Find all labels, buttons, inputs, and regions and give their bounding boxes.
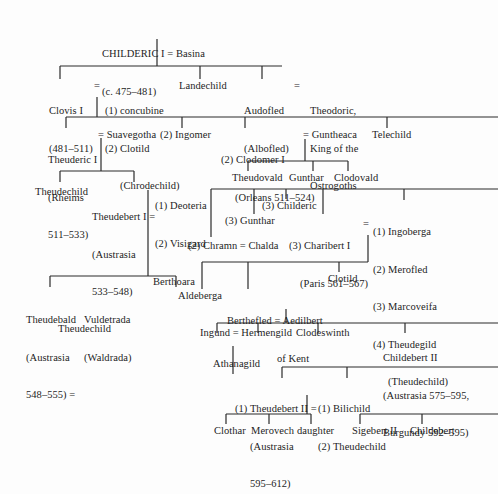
node-name: (2) Clodomer I xyxy=(221,154,314,167)
node-reign: 595–612) xyxy=(235,478,317,491)
node-alias: (Waldrada) xyxy=(84,352,131,365)
node-gunthar: Gunthar xyxy=(289,172,324,185)
node-telechild: Telechild xyxy=(372,129,411,142)
node-name: Audofled xyxy=(244,105,289,118)
node-name: Theudebert I = xyxy=(92,211,155,224)
node-clothar: Clothar xyxy=(214,425,246,438)
node-ingund: Ingund = Hermengild xyxy=(200,327,292,340)
node-childeric: (3) Childeric xyxy=(262,200,317,213)
node-name: (3) Charibert I xyxy=(289,240,368,253)
node-reign: (Austrasia xyxy=(92,249,155,262)
node-theudebald: Theudebald (Austrasia 548–555) = xyxy=(26,289,76,414)
spouse: (3) Marcoveifa xyxy=(373,301,448,314)
node-theudovald: Theudovald xyxy=(232,172,283,185)
spouse: (2) Theudechild xyxy=(318,441,386,454)
node-name: CHILDERIC I = Basina xyxy=(102,48,205,61)
node-merovech: Merovech xyxy=(251,425,294,438)
node-clodeswinth: Clodeswinth xyxy=(296,327,350,340)
spouse: (1) concubine xyxy=(105,105,180,118)
node-guntheaca: = Guntheaca xyxy=(303,129,357,142)
node-gunthar-3: (3) Gunthar xyxy=(225,215,275,228)
spouse: (2) Clotild xyxy=(105,143,180,156)
node-childebert: Childebert xyxy=(410,425,455,438)
node-reign: 548–555) = xyxy=(26,389,76,402)
node-theudechild: Theudechild xyxy=(35,186,88,199)
node-suavegotha: = Suavegotha xyxy=(98,129,156,142)
node-sigebert-ii: Sigebert II xyxy=(352,425,397,438)
node-name: (1) Theudebert II = xyxy=(235,403,317,416)
node-theudechild-2: Theudechild xyxy=(58,323,111,336)
node-reign: 511–533) xyxy=(48,229,97,242)
node-theodoric: Theodoric, King of the Ostrogoths xyxy=(310,80,358,205)
node-clodovald: Clodovald xyxy=(334,172,378,185)
node-chramn: (2) Chramn = Chalda xyxy=(188,240,279,253)
marriage-sign: = xyxy=(363,218,369,231)
marriage-sign: = xyxy=(294,80,300,93)
node-name: Theodoric, xyxy=(310,105,358,118)
node-name: Clovis I xyxy=(49,105,93,118)
node-landechild: Landechild xyxy=(179,80,227,93)
marriage-sign: = xyxy=(94,80,100,93)
node-name: Berthefled = Aedilbert xyxy=(227,315,323,328)
node-reign: (Austrasia 575–595, xyxy=(383,390,469,403)
node-name: Theuderic I xyxy=(48,154,97,167)
spouse: (1) Bilichild xyxy=(318,403,386,416)
spouse: (1) Deoteria xyxy=(155,200,207,213)
node-aldeberga: Aldeberga xyxy=(178,290,222,303)
node-ingomer: (2) Ingomer xyxy=(160,129,211,142)
spouse: (1) Ingoberga xyxy=(373,226,448,239)
node-daughter: daughter xyxy=(297,425,334,438)
node-berthoara: Berthoara xyxy=(153,276,195,289)
node-clotild: Clotild xyxy=(328,273,358,286)
node-reign: (Austrasia xyxy=(26,352,76,365)
node-reign: (Austrasia xyxy=(235,441,317,454)
node-name: Childebert II xyxy=(383,352,469,365)
node-athanagild: Athanagild xyxy=(213,358,260,371)
node-title: King of the xyxy=(310,143,358,156)
spouse: (2) Merofled xyxy=(373,264,448,277)
node-theudebert-ii-wives: (1) Bilichild (2) Theudechild xyxy=(318,378,386,466)
